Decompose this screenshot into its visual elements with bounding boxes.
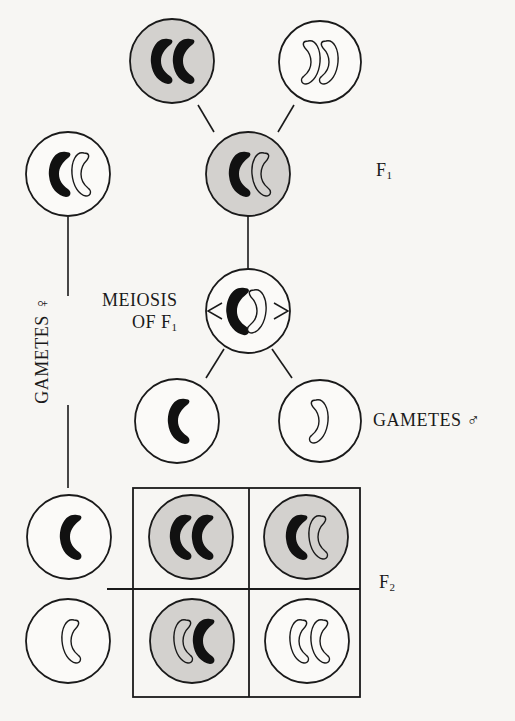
cell-f1-hybrid (206, 132, 290, 216)
cell-gamete-female-dark (27, 495, 111, 579)
cell-f1-female-left (26, 132, 110, 216)
label-f2: F2 (379, 572, 396, 593)
cell-gamete-male-light (279, 380, 361, 462)
cell-meiosis-f1 (206, 269, 290, 353)
cell-f2-ld (150, 599, 234, 683)
cell-parent-dominant (130, 19, 214, 103)
label-meiosis: MEIOSIS OF F1 (102, 289, 178, 338)
cell-parent-recessive (279, 21, 361, 103)
label-meiosis-line2-wrap: OF F1 (102, 311, 178, 338)
cell-gamete-male-dark (135, 379, 219, 463)
cell-f2-dl (264, 495, 348, 579)
cell-gamete-female-light (26, 599, 110, 683)
cell-f2-dd (149, 495, 233, 579)
cell-f2-ll (265, 599, 349, 683)
label-meiosis-line1: MEIOSIS (102, 289, 178, 311)
label-gametes-female: GAMETES ♀ (32, 293, 53, 407)
label-meiosis-line2: OF F (132, 312, 172, 332)
label-f2-main: F (379, 572, 390, 592)
label-meiosis-sub: 1 (172, 321, 178, 333)
inheritance-diagram (0, 0, 515, 721)
label-f1-main: F (376, 160, 387, 180)
label-f2-sub: 2 (390, 581, 396, 593)
label-f1-sub: 1 (387, 169, 393, 181)
label-f1: F1 (376, 160, 393, 181)
label-gametes-male: GAMETES ♂ (373, 410, 481, 431)
